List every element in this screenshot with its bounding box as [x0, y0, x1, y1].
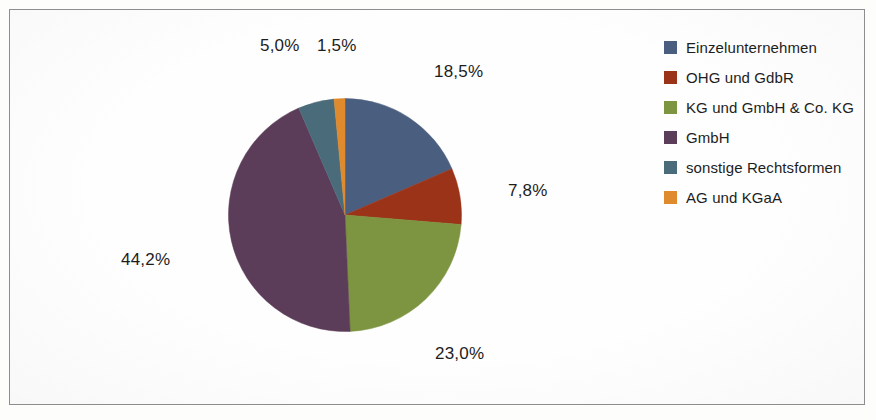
legend-item[interactable]: AG und KGaA [664, 182, 872, 212]
legend-swatch-icon [664, 191, 677, 204]
legend-item[interactable]: KG und GmbH & Co. KG [664, 92, 872, 122]
legend-swatch-icon [664, 41, 677, 54]
chart-legend: EinzelunternehmenOHG und GdbRKG und GmbH… [664, 32, 872, 212]
legend-swatch-icon [664, 161, 677, 174]
chart-frame-border: 18,5% 7,8% 23,0% 44,2% 5,0% 1,5% Einzelu… [9, 9, 865, 405]
legend-item-label: sonstige Rechtsformen [686, 159, 842, 176]
pie-label-sonstige-rechtsformen: 5,0% [260, 36, 300, 56]
chart-screenshot: 18,5% 7,8% 23,0% 44,2% 5,0% 1,5% Einzelu… [0, 0, 876, 420]
pie-label-ag-und-kgaa: 1,5% [317, 36, 357, 56]
pie-slice-group [228, 99, 461, 332]
pie-label-gmbh: 44,2% [121, 250, 170, 270]
legend-item-label: AG und KGaA [686, 189, 782, 206]
legend-item[interactable]: Einzelunternehmen [664, 32, 872, 62]
pie-chart-svg [228, 98, 462, 332]
pie-label-kg-und-gmbh-co-kg: 23,0% [435, 344, 484, 364]
legend-item-label: Einzelunternehmen [686, 39, 817, 56]
legend-item-label: KG und GmbH & Co. KG [686, 99, 854, 116]
legend-item[interactable]: OHG und GdbR [664, 62, 872, 92]
pie-slice [345, 215, 461, 331]
legend-item-label: GmbH [686, 129, 730, 146]
legend-swatch-icon [664, 101, 677, 114]
pie-label-ohg-und-gdbr: 7,8% [508, 181, 548, 201]
pie-label-einzelunternehmen: 18,5% [434, 62, 483, 82]
legend-item-label: OHG und GdbR [686, 69, 794, 86]
legend-swatch-icon [664, 71, 677, 84]
legend-item[interactable]: sonstige Rechtsformen [664, 152, 872, 182]
pie-chart [228, 98, 462, 332]
legend-item[interactable]: GmbH [664, 122, 872, 152]
legend-swatch-icon [664, 131, 677, 144]
